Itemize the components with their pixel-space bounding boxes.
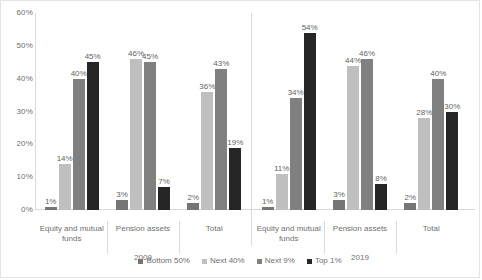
bar-column[interactable]: 40% [73,13,85,210]
bar-group: 1%11%34%54% [253,13,324,210]
bars: 3%46%45%7% [107,13,178,210]
bar-value-label: 7% [158,178,170,187]
category-separator [107,221,108,254]
bar-column[interactable]: 34% [290,13,302,210]
category-separator [396,221,397,254]
bar-value-label: 11% [274,165,289,174]
category-label-line1: Pension assets [324,224,395,234]
bar[interactable] [215,69,227,210]
legend-item[interactable]: Top 1% [307,257,342,265]
y-axis-tick-0: 0% [3,206,33,214]
legend-swatch-icon [257,259,262,264]
legend-swatch-icon [202,259,207,264]
bar-column[interactable]: 45% [144,13,156,210]
bar[interactable] [446,112,458,211]
bar-value-label: 1% [262,198,274,207]
bar[interactable] [276,174,288,210]
bar[interactable] [201,92,213,210]
bar[interactable] [73,79,85,210]
panel-2009: 1%14%40%45%Equity and mutualfunds3%46%45… [36,13,250,210]
category-label: Pension assets [324,224,395,234]
bar-column[interactable]: 11% [276,13,288,210]
bar[interactable] [375,184,387,210]
bar-column[interactable]: 1% [262,13,274,210]
bars: 2%36%43%19% [179,13,250,210]
legend-item[interactable]: Next 9% [257,257,295,265]
bar-column[interactable]: 3% [116,13,128,210]
category-separator [324,221,325,254]
bar[interactable] [404,203,416,210]
bar-group: 1%14%40%45% [36,13,107,210]
bar-column[interactable]: 40% [432,13,444,210]
category-label: Pension assets [107,224,178,234]
bar[interactable] [262,207,274,210]
bar[interactable] [116,200,128,210]
bar[interactable] [158,187,170,210]
bar-column[interactable]: 8% [375,13,387,210]
bar-value-label: 34% [288,89,304,98]
bar-group: 2%36%43%19% [179,13,250,210]
bars: 1%14%40%45% [36,13,107,210]
bar-column[interactable]: 30% [446,13,458,210]
bar[interactable] [187,203,199,210]
bar-column[interactable]: 3% [333,13,345,210]
bar-column[interactable]: 45% [87,13,99,210]
bar-column[interactable]: 7% [158,13,170,210]
legend-item[interactable]: Bottom 50% [138,257,190,265]
bar[interactable] [361,59,373,210]
category-label-line1: Pension assets [107,224,178,234]
chart-container: 60%50%40%30%20%10%0% 1%14%40%45%Equity a… [0,0,480,278]
bar-group: 2%28%40%30% [396,13,467,210]
bar-column[interactable]: 2% [187,13,199,210]
y-axis-tick-10: 10% [3,173,33,181]
bar-column[interactable]: 44% [347,13,359,210]
category-label-line2: funds [36,234,107,244]
category-label-line1: Total [179,224,250,234]
bar-column[interactable]: 28% [418,13,430,210]
bar[interactable] [333,200,345,210]
legend-label: Next 40% [210,257,245,265]
category-label: Total [396,224,467,234]
bar-column[interactable]: 46% [130,13,142,210]
bar-column[interactable]: 2% [404,13,416,210]
bar-value-label: 40% [71,70,87,79]
bar[interactable] [229,148,241,210]
bar-value-label: 19% [227,139,243,148]
y-axis-tick-50: 50% [3,42,33,50]
bar-column[interactable]: 14% [59,13,71,210]
category-label-line1: Equity and mutual [36,224,107,234]
bar-value-label: 46% [359,50,375,59]
bars: 2%28%40%30% [396,13,467,210]
bar-value-label: 45% [85,53,101,62]
y-axis: 60%50%40%30%20%10%0% [1,1,33,221]
bar-column[interactable]: 19% [229,13,241,210]
bar-column[interactable]: 43% [215,13,227,210]
bar[interactable] [144,62,156,210]
category-label: Equity and mutualfunds [36,224,107,244]
bar[interactable] [59,164,71,210]
bar[interactable] [87,62,99,210]
bar-value-label: 8% [375,175,387,184]
bar-column[interactable]: 54% [304,13,316,210]
category-separator [179,221,180,254]
bar-group: 3%44%46%8% [324,13,395,210]
bar[interactable] [304,33,316,210]
bar-value-label: 3% [333,191,345,200]
y-axis-tick-30: 30% [3,108,33,116]
legend-item[interactable]: Next 40% [202,257,245,265]
bar[interactable] [130,59,142,210]
bar-column[interactable]: 1% [45,13,57,210]
bar[interactable] [290,98,302,210]
bar-value-label: 36% [199,83,215,92]
bar[interactable] [418,118,430,210]
bar-column[interactable]: 36% [201,13,213,210]
bar-column[interactable]: 46% [361,13,373,210]
bar-value-label: 54% [302,24,318,33]
bar[interactable] [347,66,359,210]
bar-value-label: 2% [405,194,417,203]
chart-legend: Bottom 50%Next 40%Next 9%Top 1% [1,257,479,265]
y-axis-tick-20: 20% [3,140,33,148]
bar[interactable] [432,79,444,210]
bar[interactable] [45,207,57,210]
legend-label: Top 1% [315,257,342,265]
